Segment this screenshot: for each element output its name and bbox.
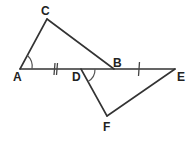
angle-mark-d	[88, 69, 95, 82]
segment-cb	[47, 19, 114, 69]
label-a: A	[13, 70, 22, 84]
tick-mark-ad	[54, 63, 55, 75]
geometry-diagram: C A B D E F	[0, 0, 194, 141]
tick-mark-ad-2	[57, 63, 58, 75]
segment-ac	[20, 19, 47, 69]
label-e: E	[177, 70, 185, 84]
label-f: F	[103, 120, 110, 134]
label-c: C	[41, 4, 50, 18]
label-b: B	[113, 56, 122, 70]
segment-fe	[107, 69, 175, 116]
angle-mark-a	[28, 56, 33, 70]
label-d: D	[72, 70, 81, 84]
tick-mark-be	[139, 62, 140, 76]
